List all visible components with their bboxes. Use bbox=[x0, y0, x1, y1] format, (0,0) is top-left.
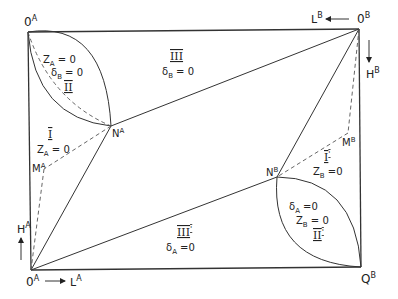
region-ii-prime-labels: δA =0 ZB = 0 II' bbox=[289, 201, 329, 242]
point-mb-label: MB bbox=[342, 136, 356, 148]
box-bottom-edge bbox=[31, 267, 361, 270]
origin-a-bottom-label: 0A bbox=[26, 274, 40, 289]
dashed-oa-na bbox=[28, 32, 111, 126]
line-nb-ob bbox=[277, 29, 359, 177]
svg-text:δA =0: δA =0 bbox=[166, 242, 195, 256]
line-oa-nb bbox=[31, 177, 277, 270]
la-label: LA bbox=[70, 274, 82, 289]
dashed-ob-mb bbox=[348, 29, 359, 133]
svg-text:δB = 0: δB = 0 bbox=[162, 66, 194, 80]
lens-ii-upper-curve bbox=[28, 31, 111, 126]
svg-text:δA =0: δA =0 bbox=[289, 201, 318, 215]
corner-q-label: QB bbox=[361, 271, 376, 286]
box-top-edge bbox=[28, 29, 359, 32]
region-iii-labels: III δB = 0 bbox=[162, 50, 194, 80]
svg-text:ZA = 0: ZA = 0 bbox=[37, 144, 70, 158]
region-i-prime-labels: I' ZB =0 bbox=[313, 149, 343, 180]
dashed-ma-oa bbox=[31, 169, 44, 270]
region-i-labels: I ZA = 0 bbox=[37, 128, 70, 158]
svg-text:ZA = 0: ZA = 0 bbox=[43, 54, 76, 68]
lb-label: LB bbox=[311, 11, 323, 26]
svg-text:δB = 0: δB = 0 bbox=[51, 67, 83, 81]
region-ii-labels: ZA = 0 δB = 0 II bbox=[43, 54, 83, 94]
svg-text:II: II bbox=[64, 81, 73, 94]
region-iii-prime-labels: III' δA =0 bbox=[166, 224, 195, 256]
line-na-ob bbox=[111, 29, 359, 126]
svg-text:III: III bbox=[170, 50, 183, 63]
lens-ii-lower-curve bbox=[28, 32, 111, 126]
point-na-label: NA bbox=[112, 127, 124, 139]
box-left-edge bbox=[28, 32, 31, 270]
hb-label: HB bbox=[366, 66, 380, 81]
origin-a-top-label: 0A bbox=[24, 14, 38, 29]
svg-text:I': I' bbox=[324, 149, 331, 164]
svg-text:II': II' bbox=[313, 227, 324, 242]
svg-text:III': III' bbox=[177, 224, 192, 239]
ha-label: HA bbox=[17, 221, 31, 236]
edgeworth-box-diagram: 0A 0B 0A QB LA HA LB HB NA NB MA MB ZA =… bbox=[0, 0, 398, 299]
svg-text:ZB =0: ZB =0 bbox=[313, 166, 343, 180]
svg-text:I: I bbox=[48, 128, 52, 141]
point-nb-label: NB bbox=[266, 166, 278, 178]
origin-b-label: 0B bbox=[357, 11, 370, 26]
box-right-edge bbox=[359, 29, 361, 267]
